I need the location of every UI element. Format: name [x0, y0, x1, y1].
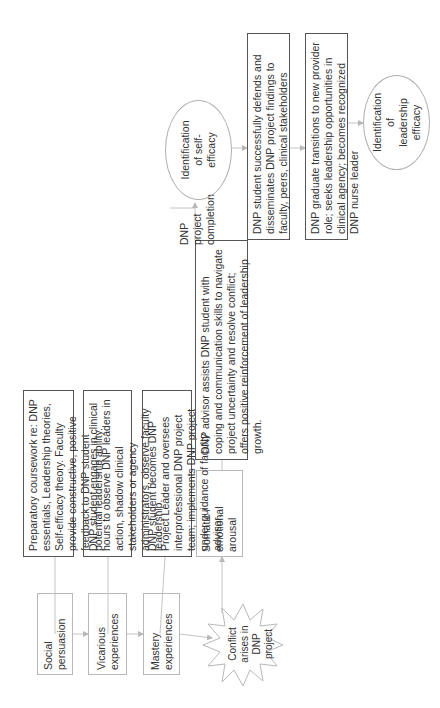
- graduate-description-box: DNP graduate transitions to new provider…: [305, 33, 348, 240]
- project-leader-description-box: DNP student becomes DNP Project Leader a…: [142, 390, 192, 557]
- vicarious-experiences-label: Vicarious experiences: [95, 598, 121, 670]
- conflict-label: Conflict arises in DNP project: [227, 618, 275, 670]
- self-efficacy-label: Identification of self-efficacy: [179, 121, 218, 180]
- vicarious-experiences-box: Vicarious experiences: [88, 593, 127, 675]
- leadership-efficacy-ellipse: Identification of leadership efficacy: [363, 75, 430, 170]
- self-efficacy-ellipse: Identification of self-efficacy: [165, 100, 232, 200]
- defends-description-box: DNP student successfully defends and dis…: [247, 33, 290, 240]
- diagram-canvas: Social persuasion Vicarious experiences …: [0, 0, 440, 708]
- advisor-description-box: DNP advisor assists DNP student with cop…: [195, 240, 248, 460]
- social-persuasion-label: Social persuasion: [42, 598, 68, 670]
- defends-description-text: DNP student successfully defends and dis…: [251, 54, 289, 234]
- project-completion-label: DNP project completion: [178, 195, 217, 245]
- mastery-experiences-label: Mastery experiences: [149, 598, 175, 670]
- mastery-experiences-box: Mastery experiences: [143, 593, 180, 675]
- leadership-efficacy-label: Identification of leadership efficacy: [371, 93, 423, 152]
- coursework-description-box: Preparatory coursework re: DNP essential…: [23, 390, 74, 557]
- social-persuasion-box: Social persuasion: [37, 593, 73, 675]
- clinical-hours-description-box: DNP student engages in clinical hours to…: [83, 390, 132, 557]
